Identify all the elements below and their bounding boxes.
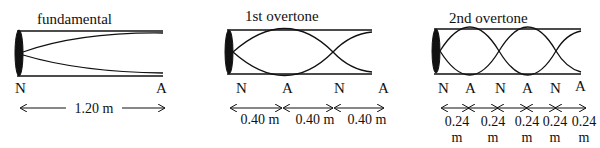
panel-2nd-overtone: 2nd overtone N A N A N A 0.24 0.24 0.24 … xyxy=(432,10,596,145)
wave-envelope-upper xyxy=(23,33,163,52)
antinode-label: A xyxy=(282,80,293,96)
spacing-unit: m xyxy=(522,130,533,145)
length-label: 1.20 m xyxy=(75,101,114,116)
antinode-label: A xyxy=(575,78,586,94)
wave-envelope-lower xyxy=(233,32,372,76)
closed-end-icon xyxy=(225,30,233,74)
closed-end-icon xyxy=(15,30,23,76)
wave-envelope-lower xyxy=(23,55,163,73)
antinode-label: A xyxy=(465,80,476,96)
spacing-value: 0.24 xyxy=(481,114,506,129)
antinode-label: A xyxy=(522,80,533,96)
node-label: N xyxy=(334,80,345,96)
wave-envelope-lower xyxy=(440,31,581,75)
wave-envelope-upper xyxy=(440,27,581,72)
node-label: N xyxy=(15,80,26,96)
panel-title: fundamental xyxy=(37,11,112,27)
spacing-label: 0.40 m xyxy=(241,112,280,127)
spacing-unit: m xyxy=(452,130,463,145)
wave-envelope-upper xyxy=(233,29,372,73)
spacing-unit: m xyxy=(579,130,590,145)
antinode-label: A xyxy=(156,80,167,96)
spacing-unit: m xyxy=(550,130,561,145)
antinode-label: A xyxy=(378,80,389,96)
node-label: N xyxy=(550,80,561,96)
spacing-label: 0.40 m xyxy=(296,112,335,127)
spacing-value: 0.24 xyxy=(543,114,568,129)
spacing-value: 0.24 xyxy=(515,114,540,129)
panel-fundamental: fundamental N A 1.20 m xyxy=(15,11,167,116)
node-label: N xyxy=(438,80,449,96)
spacing-unit: m xyxy=(488,130,499,145)
node-label: N xyxy=(495,80,506,96)
standing-waves-diagram: fundamental N A 1.20 m 1st overtone N A … xyxy=(0,0,600,148)
spacing-value: 0.24 xyxy=(445,114,470,129)
panel-title: 1st overtone xyxy=(245,8,319,24)
node-label: N xyxy=(236,80,247,96)
panel-1st-overtone: 1st overtone N A N A 0.40 m 0.40 m 0.40 … xyxy=(225,8,389,127)
spacing-label: 0.40 m xyxy=(348,112,387,127)
closed-end-icon xyxy=(432,29,440,73)
panel-title: 2nd overtone xyxy=(449,10,528,26)
spacing-value: 0.24 xyxy=(572,114,597,129)
